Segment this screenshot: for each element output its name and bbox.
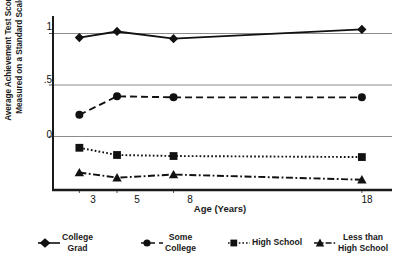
data-point-square bbox=[75, 144, 83, 152]
data-point-circle bbox=[75, 111, 83, 119]
series-high-school bbox=[75, 144, 365, 161]
data-point-triangle bbox=[112, 173, 121, 181]
data-point-diamond bbox=[75, 33, 84, 42]
legend-label-college-grad: CollegeGrad bbox=[62, 232, 93, 254]
triangle-dashdot-icon bbox=[312, 236, 338, 250]
x-tick-label-3: 3 bbox=[78, 194, 108, 205]
chart-legend: CollegeGrad SomeCollege High School bbox=[0, 222, 398, 263]
data-point-diamond bbox=[357, 25, 366, 34]
legend-label-less-than-high-school: Less thanHigh School bbox=[338, 232, 388, 254]
series-line bbox=[79, 148, 362, 157]
x-tick-label-5: 5 bbox=[122, 194, 152, 205]
data-point-diamond bbox=[112, 27, 121, 36]
legend-item-high-school[interactable]: High School bbox=[226, 222, 302, 263]
legend-label-some-college: SomeCollege bbox=[165, 232, 196, 254]
series-line bbox=[79, 172, 362, 179]
chart-container: Average Achievement Test Scores Measured… bbox=[0, 0, 398, 263]
series-line bbox=[79, 96, 362, 115]
legend-item-some-college[interactable]: SomeCollege bbox=[139, 222, 196, 263]
legend-item-less-than-high-school[interactable]: Less thanHigh School bbox=[312, 222, 388, 263]
data-point-circle bbox=[113, 92, 121, 100]
data-point-square bbox=[170, 152, 178, 160]
legend-item-college-grad[interactable]: CollegeGrad bbox=[36, 222, 93, 263]
data-point-square bbox=[358, 153, 366, 161]
diamond-solid-icon bbox=[36, 236, 62, 250]
data-point-square bbox=[113, 151, 121, 159]
x-tick-label-18: 18 bbox=[352, 194, 382, 205]
x-axis-title: Age (Years) bbox=[160, 203, 280, 214]
series-less-than-high-school bbox=[75, 168, 367, 184]
series-some-college bbox=[75, 92, 366, 119]
square-dotted-icon bbox=[226, 236, 252, 250]
circle-dashed-icon bbox=[139, 236, 165, 250]
data-point-circle bbox=[170, 93, 178, 101]
data-point-circle bbox=[358, 93, 366, 101]
legend-label-high-school: High School bbox=[252, 237, 302, 248]
data-point-diamond bbox=[169, 34, 178, 43]
